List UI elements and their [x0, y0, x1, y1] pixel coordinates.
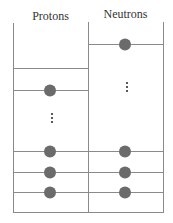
- nucleon-energy-level-diagram: [0, 0, 173, 223]
- proton-ball: [44, 187, 56, 199]
- neutron-ball: [119, 187, 131, 199]
- neutron-ball: [119, 39, 131, 51]
- neutron-ball: [119, 167, 131, 179]
- ellipsis-dot: [51, 121, 53, 123]
- ellipsis-dot: [126, 82, 128, 84]
- ellipsis-dot: [126, 86, 128, 88]
- proton-ball: [44, 146, 56, 158]
- neutron-ball: [119, 146, 131, 158]
- ellipsis-dot: [51, 113, 53, 115]
- proton-ball: [44, 85, 56, 97]
- proton-ball: [44, 167, 56, 179]
- ellipsis-dot: [126, 90, 128, 92]
- ellipsis-dot: [51, 117, 53, 119]
